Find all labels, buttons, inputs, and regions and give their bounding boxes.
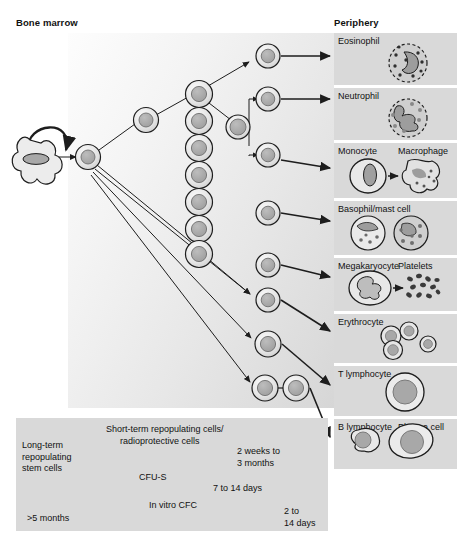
bipotent-progenitor	[226, 115, 250, 139]
arrow-to-erythrocyte	[281, 300, 330, 331]
progenitor-cell	[186, 108, 213, 135]
duration-2: 7 to 14 days	[213, 483, 262, 495]
mast-cell-illustration	[394, 216, 428, 250]
b-lymphocyte-illustration	[351, 428, 379, 451]
megakaryocyte-illustration	[349, 271, 391, 305]
connector-prog-to-column	[156, 96, 190, 115]
progenitor-column	[186, 81, 213, 268]
connector-bipotent-up	[249, 99, 258, 146]
precursor-monocyte	[256, 143, 280, 167]
lineage-connectors	[59, 62, 258, 382]
plasma-cell-illustration	[387, 421, 435, 461]
arrow-to-megakaryocyte	[281, 265, 330, 277]
arrow-to-monocyte	[281, 160, 330, 168]
progenitor-cell	[186, 241, 213, 268]
connector-column-to-erythroid	[207, 258, 250, 294]
duration-1: 2 weeks to 3 months	[237, 446, 280, 469]
monocyte-illustration	[350, 159, 386, 193]
precursor-neutrophil	[256, 87, 280, 111]
hematopoietic-stem-cell	[76, 145, 101, 170]
marrow-precursor-cells	[252, 44, 309, 401]
precursor-megakaryocyte	[256, 253, 280, 277]
connector-hsc-to-myeloid	[99, 124, 135, 150]
precursor-plasma-cell	[283, 375, 309, 401]
connector-hsc-fan-c	[93, 172, 251, 338]
long-term-stem-cell	[12, 137, 62, 184]
erythrocyte-illustration	[381, 322, 436, 360]
arrow-to-basophil	[281, 213, 330, 221]
five-months-label: >5 months	[27, 513, 69, 525]
duration-3: 2 to 14 days	[284, 506, 316, 529]
cfu-s-label: CFU-S	[139, 472, 167, 484]
progenitor-cell	[186, 135, 213, 162]
basophil-illustration	[351, 216, 385, 250]
progenitor-cell	[186, 189, 213, 216]
precursor-erythrocyte	[256, 288, 280, 312]
periphery-illustrations	[349, 44, 441, 461]
hematopoiesis-diagram: Bone marrow Periphery EosinophilNeutroph…	[0, 0, 460, 547]
precursor-t-lymphocyte	[255, 331, 281, 357]
precursor-eosinophil	[256, 44, 280, 68]
long-term-label: Long-term repopulating stem cells	[22, 440, 72, 475]
connector-column-to-eosinophil	[208, 62, 249, 86]
in-vitro-italic: In vitro	[149, 500, 176, 510]
eosinophil-illustration	[389, 44, 427, 82]
progenitor-cell	[186, 81, 213, 108]
t-lymphocyte-illustration	[386, 373, 424, 411]
progenitor-cell	[186, 162, 213, 189]
connector-hsc-fan-a	[97, 165, 198, 248]
in-vitro-cfc-label: In vitro CFC	[149, 500, 197, 512]
cfc-text: CFC	[179, 500, 198, 510]
short-term-marker-label: Short-term repopulating cells/ radioprot…	[106, 424, 224, 447]
neutrophil-illustration	[389, 99, 427, 137]
precursor-basophil	[256, 201, 280, 225]
macrophage-illustration	[402, 159, 439, 192]
connector-hsc-fan-b	[95, 169, 250, 294]
precursor-b-lymphocyte	[252, 375, 278, 401]
platelets-illustration	[405, 273, 441, 299]
progenitor-cell	[186, 216, 213, 243]
multipotent-progenitor	[134, 108, 159, 133]
connector-hsc-fan-d	[91, 175, 250, 382]
